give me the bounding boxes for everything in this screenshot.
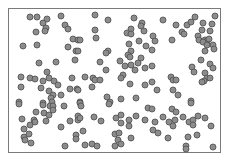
dot [170, 87, 176, 93]
dot [160, 114, 166, 120]
dot [207, 75, 213, 81]
dot [172, 117, 178, 123]
dot [36, 60, 42, 66]
dot [127, 81, 133, 87]
dot [126, 123, 132, 129]
dot [22, 137, 28, 143]
dot [112, 143, 118, 149]
dot [28, 140, 34, 146]
dot [118, 141, 124, 147]
dot [38, 85, 44, 91]
dot [209, 21, 215, 27]
dot [97, 59, 103, 65]
dot [210, 144, 216, 150]
dot [118, 75, 124, 81]
dot [53, 59, 59, 65]
dot [142, 82, 148, 88]
dot [77, 37, 83, 43]
dot [142, 117, 148, 123]
dot [202, 115, 208, 121]
dot [33, 29, 39, 35]
dot [58, 92, 64, 98]
dot [175, 92, 181, 98]
dot [40, 78, 46, 84]
dot [65, 26, 71, 32]
dot [82, 142, 88, 148]
dot [58, 13, 64, 19]
dot [91, 114, 97, 120]
dot [133, 113, 139, 119]
dot [75, 87, 81, 93]
dot [206, 36, 212, 42]
dot [116, 130, 122, 136]
dot [212, 13, 218, 19]
dot [141, 28, 147, 34]
dot [138, 55, 144, 61]
dot [82, 74, 88, 80]
dot [132, 67, 138, 73]
dot [126, 117, 132, 123]
dot [20, 43, 26, 49]
dot [173, 77, 179, 83]
dot [195, 113, 201, 119]
dot [34, 42, 40, 48]
dot [210, 65, 216, 71]
dot [181, 31, 187, 37]
dot [128, 31, 134, 37]
dot [173, 22, 179, 28]
dot [106, 101, 112, 107]
dot [122, 63, 128, 69]
dot [192, 14, 198, 20]
dot [170, 123, 176, 129]
dot [160, 17, 166, 23]
dot [183, 146, 189, 152]
dot [118, 96, 124, 102]
dot [42, 28, 48, 34]
dot [89, 84, 95, 90]
dot [149, 47, 155, 53]
dot [50, 107, 56, 113]
dot [94, 143, 100, 149]
dot [103, 67, 109, 73]
dot [188, 19, 194, 25]
dot [126, 41, 132, 47]
dot [98, 118, 104, 124]
dot [33, 109, 39, 115]
dot [128, 62, 134, 68]
dot [194, 132, 200, 138]
dot [78, 103, 84, 109]
dot [27, 122, 33, 128]
dot [133, 95, 139, 101]
dot [128, 135, 134, 141]
dot [207, 28, 213, 34]
dot [211, 46, 217, 52]
dot [202, 48, 208, 54]
dot [204, 42, 210, 48]
dot [62, 143, 68, 149]
dot [69, 75, 75, 81]
dot [16, 101, 22, 107]
dot [180, 114, 186, 120]
dot [97, 77, 103, 83]
dot [43, 118, 49, 124]
dot [191, 69, 197, 75]
dot [118, 120, 124, 126]
dot [46, 112, 52, 118]
dot [136, 38, 142, 44]
dot [72, 57, 78, 63]
dot [127, 54, 133, 60]
dot [117, 58, 123, 64]
dot [149, 79, 155, 85]
dot [92, 27, 98, 33]
dot [34, 14, 40, 20]
dot [75, 48, 81, 54]
dot [188, 100, 194, 106]
dot [142, 65, 148, 71]
dot [61, 103, 67, 109]
dot [21, 126, 27, 132]
dot [199, 79, 205, 85]
dot [152, 119, 158, 125]
dot-field [0, 0, 227, 160]
dot [169, 37, 175, 43]
dot [200, 20, 206, 26]
